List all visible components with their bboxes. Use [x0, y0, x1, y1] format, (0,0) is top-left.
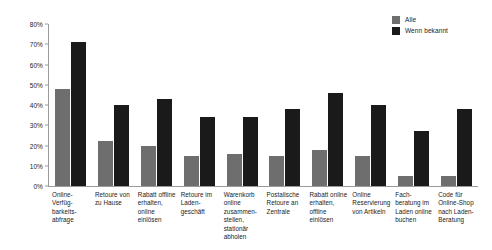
y-tick-mark [45, 44, 48, 45]
bar-group [92, 24, 135, 186]
plot-area: 80%70%60%50%40%30%20%10%0% [48, 24, 478, 186]
bar-group [221, 24, 264, 186]
y-tick-mark [45, 125, 48, 126]
x-axis-label: Retoure von zu Hause [92, 191, 135, 249]
bar-alle[interactable] [227, 154, 242, 186]
y-tick-mark [45, 64, 48, 65]
bar-wenn-bekannt[interactable] [457, 109, 472, 186]
bar-wenn-bekannt[interactable] [328, 93, 343, 186]
bar-group [135, 24, 178, 186]
x-axis-labels: Online-Verfüg-barkeits-abfrageRetoure vo… [49, 191, 478, 249]
bar-group [392, 24, 435, 186]
x-axis-label: Retoure im Laden-geschäft [178, 191, 221, 249]
legend-item-alle: Alle [392, 16, 448, 24]
bar-alle[interactable] [269, 156, 284, 186]
x-axis-label: Code für Online-Shop nach Laden-Beratung [435, 191, 478, 249]
bar-alle[interactable] [55, 89, 70, 186]
x-axis-label: Postalische Retoure an Zentrale [264, 191, 307, 249]
bar-wenn-bekannt[interactable] [243, 117, 258, 186]
bar-alle[interactable] [441, 176, 456, 186]
y-tick-mark [45, 145, 48, 146]
bar-wenn-bekannt[interactable] [414, 131, 429, 186]
x-axis-label: Rabatt online erhalten, offline einlösen [306, 191, 349, 249]
bar-group [349, 24, 392, 186]
bar-group [49, 24, 92, 186]
bar-alle[interactable] [98, 141, 113, 186]
legend-swatch-alle [392, 16, 400, 24]
bar-wenn-bekannt[interactable] [371, 105, 386, 186]
y-tick-mark [45, 24, 48, 25]
bar-wenn-bekannt[interactable] [285, 109, 300, 186]
bar-alle[interactable] [141, 146, 156, 187]
y-tick-mark [45, 165, 48, 166]
bar-alle[interactable] [355, 156, 370, 186]
bar-group [435, 24, 478, 186]
legend-label-alle: Alle [405, 17, 416, 24]
bar-alle[interactable] [184, 156, 199, 186]
bar-wenn-bekannt[interactable] [114, 105, 129, 186]
bar-group [178, 24, 221, 186]
x-axis-label: Online-Verfüg-barkeits-abfrage [49, 191, 92, 249]
bar-wenn-bekannt[interactable] [157, 99, 172, 186]
bar-groups [49, 24, 478, 186]
x-axis-label: Rabatt offline erhalten, online einlösen [135, 191, 178, 249]
bar-wenn-bekannt[interactable] [200, 117, 215, 186]
bar-alle[interactable] [312, 150, 327, 186]
x-axis-label: Online Reservierung von Artikeln [349, 191, 392, 249]
y-tick-mark [45, 186, 48, 187]
bar-wenn-bekannt[interactable] [71, 42, 86, 186]
bar-group [306, 24, 349, 186]
y-tick-mark [45, 84, 48, 85]
x-axis-label: Fach-beratung im Laden online buchen [392, 191, 435, 249]
bar-chart: Alle Wenn bekannt 80%70%60%50%40%30%20%1… [0, 0, 492, 250]
bar-alle[interactable] [398, 176, 413, 186]
y-tick-mark [45, 105, 48, 106]
bar-group [264, 24, 307, 186]
x-axis-label: Warenkorb online zusammen-stellen, stati… [221, 191, 264, 249]
x-axis-line [48, 186, 478, 187]
